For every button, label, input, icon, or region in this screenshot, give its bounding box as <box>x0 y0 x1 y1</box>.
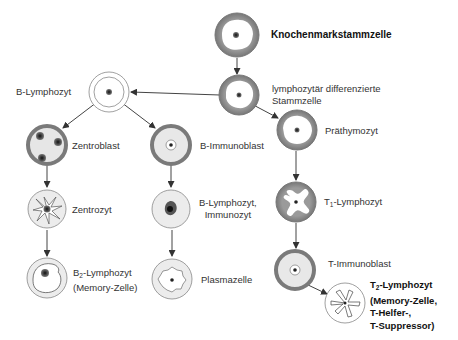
label-b-immunoblast: B-Immunoblast <box>200 140 264 152</box>
label-lymph-stem-cell: lymphozytär differenzierte Stammzelle <box>272 83 381 107</box>
zentroblast-cell <box>28 126 66 164</box>
label-line: (Memory-Zelle, <box>370 295 437 308</box>
label-part: -Lymphozyt <box>333 196 382 207</box>
plasmazelle-cell <box>152 259 192 299</box>
label-b-lymphocyte: B-Lymphozyt <box>16 86 71 98</box>
b2-lymphocyte-cell <box>27 258 67 298</box>
immunozyt-cell <box>152 190 190 228</box>
lymph-stem-cell <box>219 75 259 115</box>
label-prathymocyte: Präthymozyt <box>325 125 378 137</box>
zentrozyt-cell <box>28 190 66 228</box>
label-part: -Lymphozyt <box>379 279 432 290</box>
t-immunoblast-cell <box>276 251 314 289</box>
label-line: T-Helfer-, <box>370 307 437 320</box>
stem-cell <box>215 13 259 57</box>
label-part: -Lymphozyt <box>83 267 132 278</box>
label-line: T-Suppressor) <box>370 320 437 333</box>
label-t1-lymphocyte: T1-Lymphozyt <box>324 196 382 211</box>
label-t-immunoblast: T-Immunoblast <box>328 258 391 270</box>
label-b2-lymphocyte: B2-Lymphozyt (Memory-Zelle) <box>73 267 137 294</box>
label-stem-cell: Knochenmarkstammzelle <box>271 29 392 41</box>
t1-lymphocyte-cell <box>276 182 316 222</box>
label-zentrozyt: Zentrozyt <box>72 204 112 216</box>
label-immunozyt: B-Lymphozyt, Immunozyt <box>199 197 257 221</box>
label-line: Immunozyt <box>199 209 257 221</box>
label-zentroblast: Zentroblast <box>72 140 120 152</box>
label-line: lymphozytär differenzierte <box>272 83 381 95</box>
t2-lymphocyte-cell <box>325 283 365 323</box>
label-line: (Memory-Zelle) <box>73 282 137 294</box>
b-lymphocyte-cell <box>89 72 129 112</box>
b-immunoblast-cell <box>152 126 190 164</box>
label-line: B-Lymphozyt, <box>199 197 257 209</box>
label-t2-lymphocyte: T2-Lymphozyt (Memory-Zelle, T-Helfer-, T… <box>370 279 437 332</box>
label-plasmazelle: Plasmazelle <box>201 274 252 286</box>
prathymocyte-cell <box>277 110 317 150</box>
label-line: Stammzelle <box>272 95 381 107</box>
